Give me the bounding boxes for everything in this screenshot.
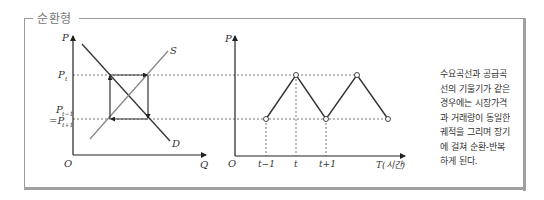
description-line: 선의 기울기가 같은 <box>440 82 515 97</box>
tick-t-minus-1: t−1 <box>258 159 275 169</box>
left-graph: P O Q S D P t P t−1 =P t+1 <box>49 32 208 170</box>
right-origin-label: O <box>228 158 236 169</box>
description-text: 수요곡선과 공급곡 선의 기울기가 같은 경우에는 시장가격 과 거래량이 동일… <box>440 67 515 169</box>
description-line: 에 걸쳐 순환-반복 <box>440 140 515 155</box>
supply-label: S <box>170 45 177 56</box>
description-line: 과 거래량이 동일한 <box>440 111 515 126</box>
pt-subscript: t <box>65 75 68 82</box>
pt-plus-1-subscript: t+1 <box>62 121 73 128</box>
description-line: 궤적을 그리며 장기 <box>440 125 515 140</box>
time-guides <box>266 75 326 156</box>
description-line: 수요곡선과 공급곡 <box>440 67 515 82</box>
price-points <box>264 73 391 122</box>
demand-label: D <box>171 138 180 149</box>
pt-label: P <box>57 69 65 80</box>
tick-t: t <box>294 159 298 169</box>
left-y-label: P <box>61 32 69 43</box>
description-line: 하게 된다. <box>440 154 515 169</box>
right-graph: P O t−1 t t+1 T(시간) <box>224 33 406 170</box>
tick-t-plus-1: t+1 <box>319 159 336 169</box>
right-x-label: T(시간) <box>376 160 406 170</box>
description-line: 경우에는 시장가격 <box>440 96 515 111</box>
demand-curve <box>82 44 170 141</box>
right-y-label: P <box>224 33 232 44</box>
left-x-label: Q <box>200 159 208 170</box>
left-origin-label: O <box>64 158 72 169</box>
price-path <box>266 75 388 119</box>
